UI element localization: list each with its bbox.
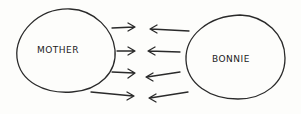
arrow-right-icon <box>117 47 135 55</box>
arrow-right-icon <box>112 69 135 78</box>
mother-node-label: MOTHER <box>37 45 79 55</box>
bonnie-node-label: BONNIE <box>212 54 250 64</box>
arrows-to-mother <box>146 25 189 102</box>
arrow-left-icon <box>146 72 180 81</box>
arrows-to-bonnie <box>91 23 135 100</box>
arrow-left-icon <box>149 92 188 102</box>
arrow-left-icon <box>150 25 189 33</box>
arrow-right-icon <box>112 23 135 31</box>
diagram-canvas <box>0 0 301 114</box>
arrow-right-icon <box>91 92 134 100</box>
arrow-left-icon <box>148 47 180 55</box>
